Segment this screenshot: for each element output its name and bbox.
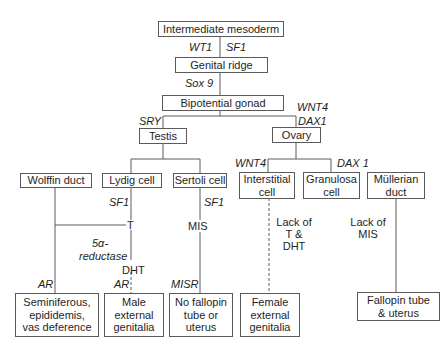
- label-dax1-granulosa: DAX 1: [337, 157, 369, 169]
- label-sox9: Sox 9: [185, 77, 213, 89]
- label-reductase: reductase: [79, 250, 127, 262]
- label-sf1-top: SF1: [226, 41, 246, 53]
- node-mullerian-duct: Müllerian duct: [367, 172, 425, 199]
- node-granulosa-cell: Granulosa cell: [303, 172, 360, 199]
- node-intermediate-mesoderm: Intermediate mesoderm: [158, 21, 284, 37]
- label-ar-lydig: AR: [114, 278, 129, 290]
- label-wnt4-interstitial: WNT4: [235, 157, 266, 169]
- label-t: T: [127, 219, 134, 231]
- node-interstitial-cell: Interstitial cell: [239, 172, 295, 199]
- node-sertoli-cell: Sertoli cell: [173, 173, 227, 188]
- label-lack-mis: Lack of MIS: [347, 216, 389, 240]
- label-sry: SRY: [139, 115, 161, 127]
- label-dax1-ovary: DAX1: [298, 115, 327, 127]
- node-genital-ridge: Genital ridge: [175, 57, 268, 73]
- label-misr: MISR: [171, 278, 199, 290]
- node-seminiferous: Seminiferous, epididemis, vas deference: [15, 293, 99, 337]
- label-sf1-lydig: SF1: [109, 196, 129, 208]
- label-mis: MIS: [188, 220, 208, 232]
- label-wnt4-ovary: WNT4: [297, 101, 328, 113]
- node-fallopin-tube-uterus: Fallopin tube & uterus: [357, 292, 440, 321]
- node-no-fallopin: No fallopin tube or uterus: [169, 293, 233, 337]
- node-bipotential-gonad: Bipotential gonad: [162, 95, 284, 111]
- node-lydig-cell: Lydig cell: [102, 173, 162, 188]
- node-testis: Testis: [139, 128, 187, 144]
- node-male-external-genitalia: Male external genitalia: [104, 293, 164, 337]
- label-wt1: WT1: [189, 41, 212, 53]
- label-ar-wolffin: AR: [38, 278, 53, 290]
- label-dht: DHT: [122, 264, 145, 276]
- node-female-external-genitalia: Female external genitalia: [240, 293, 300, 337]
- label-lack-t-dht: Lack of T & DHT: [273, 216, 315, 252]
- node-ovary: Ovary: [272, 127, 321, 143]
- node-wolffin-duct: Wolffin duct: [20, 173, 92, 188]
- label-sf1-sertoli: SF1: [204, 196, 224, 208]
- label-5alpha: 5α-: [92, 237, 108, 249]
